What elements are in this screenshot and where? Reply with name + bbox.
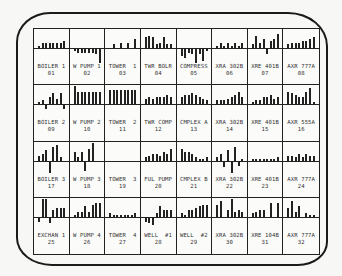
data-bar (188, 49, 190, 53)
data-bar (252, 159, 254, 161)
monitor-panel-28[interactable]: WELL #1 28 (141, 198, 177, 254)
data-bar (156, 97, 158, 104)
panel-label: XRA 302B 14 (212, 119, 247, 133)
panel-label: W PUMP 2 10 (70, 119, 105, 133)
zero-baseline (212, 104, 247, 105)
panel-label: AXR 555A 16 (283, 119, 319, 133)
monitor-panel-10[interactable]: W PUMP 2 10 (70, 85, 106, 141)
panel-number: 05 (177, 70, 212, 77)
monitor-panel-32[interactable]: AXR 777A 32 (283, 198, 319, 254)
panel-number: 09 (34, 126, 69, 133)
monitor-panel-11[interactable]: TOWER 2 11 (105, 85, 141, 141)
panel-number: 16 (283, 126, 319, 133)
data-bar (181, 49, 183, 56)
sparkbar-chart (177, 85, 212, 117)
data-bar (291, 43, 293, 48)
data-bar (273, 159, 275, 161)
panel-name: XRE 401B (251, 176, 279, 182)
panel-number: 18 (70, 183, 105, 190)
zero-baseline (283, 217, 319, 218)
panel-number: 13 (177, 126, 212, 133)
panel-number: 14 (212, 126, 247, 133)
monitor-panel-23[interactable]: XRE 401B 23 (248, 142, 284, 198)
data-bar (291, 201, 293, 217)
data-bar (84, 162, 86, 171)
data-bar (259, 43, 261, 48)
monitor-panel-09[interactable]: BOILER 2 09 (34, 85, 70, 141)
data-bar (223, 46, 225, 48)
panel-number: 24 (283, 183, 319, 190)
monitor-panel-30[interactable]: XRA 302B 30 (212, 198, 248, 254)
sparkbar-chart (212, 142, 247, 174)
panel-name: XRA 302B (216, 176, 244, 182)
panel-label: CMPLEX A 13 (177, 119, 212, 133)
panel-label: TWR BOLR 04 (141, 63, 176, 77)
data-bar (38, 156, 40, 161)
data-bar (270, 203, 272, 217)
monitor-panel-14[interactable]: XRA 302B 14 (212, 85, 248, 141)
data-bar (49, 43, 51, 48)
sparkbar-chart (34, 29, 69, 61)
data-bar (148, 97, 150, 104)
monitor-panel-31[interactable]: XRE 104B 31 (248, 198, 284, 254)
panel-label: EXCHAN 1 25 (34, 232, 69, 246)
data-bar (131, 90, 133, 104)
data-bar (202, 99, 204, 104)
monitor-panel-25[interactable]: EXCHAN 1 25 (34, 198, 70, 254)
data-bar (88, 92, 90, 104)
data-bar (206, 49, 208, 51)
monitor-panel-04[interactable]: TWR BOLR 04 (141, 29, 177, 85)
panel-number: 10 (70, 126, 105, 133)
sparkbar-chart (248, 198, 283, 230)
sparkbar-chart (212, 29, 247, 61)
monitor-panel-03[interactable]: TOWER 1 03 (105, 29, 141, 85)
data-bar (305, 41, 307, 48)
monitor-panel-02[interactable]: W PUMP 1 02 (70, 29, 106, 85)
monitor-panel-12[interactable]: TWR COMP 12 (141, 85, 177, 141)
data-bar (163, 210, 165, 217)
data-bar (266, 49, 268, 54)
data-bar (199, 97, 201, 104)
data-bar (45, 43, 47, 48)
monitor-panel-13[interactable]: CMPLEX A 13 (177, 85, 213, 141)
monitor-panel-16[interactable]: AXR 555A 16 (283, 85, 319, 141)
monitor-panel-21[interactable]: CMPLEX B 21 (177, 142, 213, 198)
sparkbar-chart (141, 29, 176, 61)
monitor-panel-17[interactable]: BOILER 3 17 (34, 142, 70, 198)
data-bar (92, 92, 94, 104)
data-bar (42, 154, 44, 161)
monitor-panel-29[interactable]: WELL #2 29 (177, 198, 213, 254)
panel-name: W PUMP 4 (73, 232, 101, 238)
monitor-panel-06[interactable]: XRA 302B 06 (212, 29, 248, 85)
monitor-panel-20[interactable]: FUL PUMP 20 (141, 142, 177, 198)
monitor-panel-05[interactable]: COMPRESS 05 (177, 29, 213, 85)
zero-baseline (212, 161, 247, 162)
monitor-panel-26[interactable]: W PUMP 4 26 (70, 198, 106, 254)
data-bar (170, 149, 172, 161)
monitor-panel-15[interactable]: XRE 401B 15 (248, 85, 284, 141)
panel-label: AXR 777A 32 (283, 232, 319, 246)
data-bar (113, 44, 115, 48)
monitor-panel-01[interactable]: BOILER 1 01 (34, 29, 70, 85)
data-bar (295, 212, 297, 217)
data-bar (220, 154, 222, 161)
sparkbar-chart (212, 198, 247, 230)
monitor-panel-08[interactable]: AXR 777A 08 (283, 29, 319, 85)
data-bar (291, 93, 293, 104)
data-bar (49, 97, 51, 104)
data-bar (216, 100, 218, 104)
panel-name: CMPLEX A (180, 119, 208, 125)
data-bar (227, 150, 229, 161)
panel-name: TOWER 3 (109, 176, 137, 182)
data-bar (309, 88, 311, 104)
monitor-panel-27[interactable]: TOWER 4 27 (105, 198, 141, 254)
monitor-panel-19[interactable]: TOWER 3 19 (105, 142, 141, 198)
panel-name: FUL PUMP (144, 176, 172, 182)
monitor-panel-07[interactable]: XRE 401B 07 (248, 29, 284, 85)
panel-name: XRE 401B (251, 119, 279, 125)
monitor-panel-24[interactable]: AXR 777A 24 (283, 142, 319, 198)
monitor-panel-18[interactable]: W PUMP 3 18 (70, 142, 106, 198)
data-bar (252, 213, 254, 217)
panel-number: 21 (177, 183, 212, 190)
monitor-panel-22[interactable]: XRA 302B 22 (212, 142, 248, 198)
